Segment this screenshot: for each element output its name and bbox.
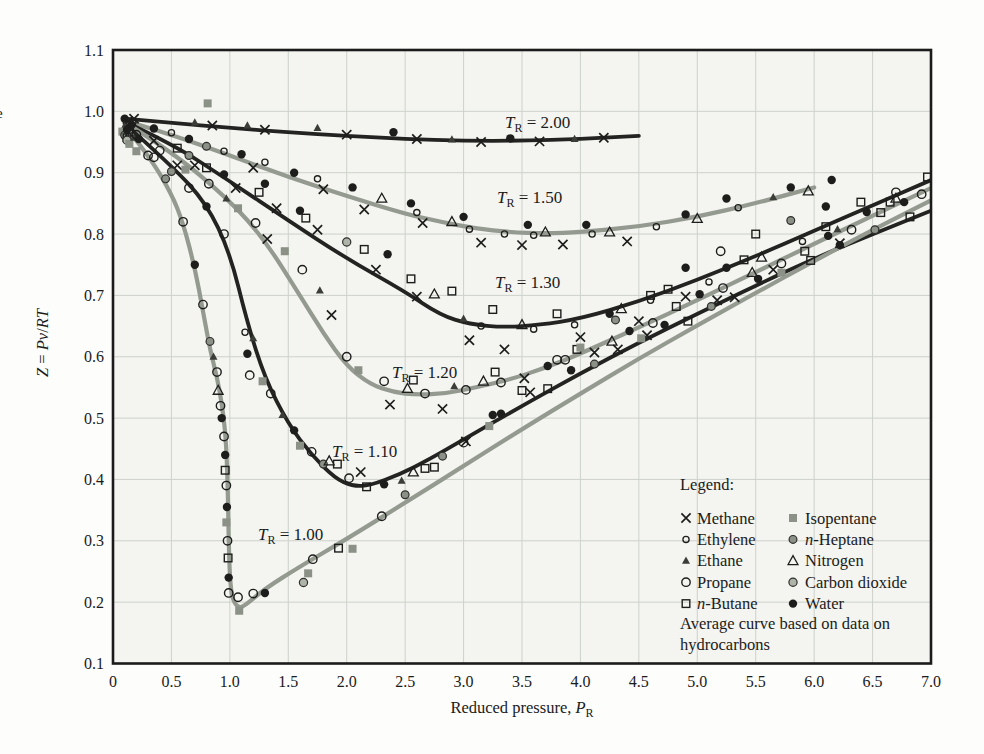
x-tick-label: 5.0 [687,673,707,690]
y-tick-label: 0.3 [84,532,104,549]
point-isopentane [204,99,212,107]
point-isopentane [349,545,357,553]
y-axis-title: Z = Pv/RT [33,307,52,377]
point-water [459,213,467,221]
point-isopentane [222,518,230,526]
legend-label-nitrogen: Nitrogen [805,551,864,570]
x-tick-label: 1.5 [278,673,298,690]
legend-label-n-butane: n-Butane [697,594,757,613]
point-isopentane [296,442,304,450]
x-tick-label: 1.0 [220,673,240,690]
point-water [824,232,832,240]
point-carbon-dioxide [299,578,307,586]
page-margin-fragment: e [0,105,3,121]
point-water [243,349,251,357]
point-water [223,503,231,511]
point-water [681,210,689,218]
x-tick-label: 2.0 [337,673,357,690]
point-water [296,207,304,215]
x-tick-label: 6.5 [863,673,883,690]
point-water [290,426,298,434]
point-water [822,202,830,210]
point-n-heptane [168,168,176,176]
x-tick-label: 4.5 [629,673,649,690]
point-n-heptane [591,360,599,368]
point-water [900,198,908,206]
legend-label-ethylene: Ethylene [697,530,756,549]
point-water [544,362,552,370]
point-water [389,128,397,136]
x-tick-label: 2.5 [395,673,415,690]
point-isopentane [132,147,140,155]
legend-title: Legend: [680,475,734,494]
x-tick-label: 3.0 [454,673,474,690]
x-axis-title: Reduced pressure, PR [450,698,593,720]
point-n-heptane [439,452,447,460]
x-tick-label: 6.0 [804,673,824,690]
point-water [567,366,575,374]
point-water [261,589,269,597]
point-water [221,451,229,459]
point-water [407,199,415,207]
point-isopentane [304,569,312,577]
x-tick-label: 0 [109,673,117,690]
point-n-heptane [185,152,193,160]
point-water [220,170,228,178]
legend-label-methane: Methane [697,509,755,528]
point-water [348,183,356,191]
point-n-heptane [206,338,214,346]
legend-note-line-2: hydrocarbons [680,635,770,654]
point-water [123,126,131,134]
point-water [185,135,193,143]
point-n-heptane [612,316,620,324]
point-isopentane [125,140,133,148]
y-tick-label: 0.4 [84,471,104,488]
point-water [150,124,158,132]
point-water [836,241,844,249]
point-water [497,410,505,418]
point-water [217,414,225,422]
point-water [660,321,668,329]
point-n-heptane [203,142,211,150]
point-carbon-dioxide [343,238,351,246]
y-tick-label: 0.6 [84,348,104,365]
point-isopentane [281,247,289,255]
point-water [380,480,388,488]
point-n-heptane [707,303,715,311]
point-isopentane [235,607,243,615]
point-n-heptane [401,491,409,499]
x-tick-label: 5.5 [746,673,766,690]
legend-label-isopentane: Isopentane [805,509,876,528]
point-water [135,135,143,143]
y-tick-label: 0.8 [84,226,104,243]
y-tick-label: 1.1 [84,42,104,59]
point-n-heptane [787,217,795,225]
point-n-heptane [871,226,879,234]
legend-label-carbon-dioxide: Carbon dioxide [805,573,907,592]
point-carbon-dioxide [789,578,797,586]
point-isopentane [181,166,189,174]
point-water [722,264,730,272]
point-n-heptane [162,175,170,183]
point-isopentane [777,269,785,277]
y-tick-label: 0.5 [84,410,104,427]
compressibility-factor-chart: TR = 2.00TR = 1.50TR = 1.30TR = 1.20TR =… [0,0,984,754]
x-tick-label: 4.0 [570,673,590,690]
legend-label-propane: Propane [697,573,751,592]
x-tick-label: 0.5 [161,673,181,690]
point-water [261,180,269,188]
point-water [489,411,497,419]
point-water [202,202,210,210]
y-tick-label: 0.9 [84,164,104,181]
point-isopentane [354,366,362,374]
point-isopentane [789,514,797,522]
point-water [582,221,590,229]
y-tick-label: 0.7 [84,287,104,304]
point-water [787,183,795,191]
point-isopentane [234,204,242,212]
x-tick-label: 7.0 [921,673,941,690]
y-tick-label: 0.1 [84,655,104,672]
point-water [681,264,689,272]
point-water [290,169,298,177]
point-water [695,290,703,298]
